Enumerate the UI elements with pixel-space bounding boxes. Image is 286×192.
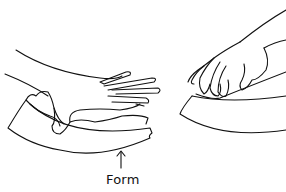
right-panel — [180, 10, 286, 133]
line-drawing — [0, 0, 286, 192]
left-panel — [5, 50, 160, 153]
illustration: Form — [0, 0, 286, 192]
form-label: Form — [106, 172, 140, 187]
arrow-up-icon — [117, 151, 125, 168]
